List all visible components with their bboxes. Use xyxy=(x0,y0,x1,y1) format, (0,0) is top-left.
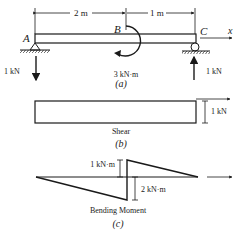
point-label-b: B xyxy=(114,23,121,35)
point-label-c: C xyxy=(200,25,208,37)
moment-curve xyxy=(36,160,198,200)
applied-moment-arrowhead-icon xyxy=(114,50,121,57)
dimension-label-2m: 2 m xyxy=(74,8,88,18)
x-axis-label: x xyxy=(227,25,233,36)
beam xyxy=(35,34,196,43)
figure-c-bending-moment-diagram: 1 kN·m 2 kN·m Bending Moment (c) xyxy=(36,160,232,230)
figure-a-loaded-beam: 2 m 1 m A B C x 1 kN 1 kN 3 kN·m xyxy=(4,8,233,90)
beam-diagram: 2 m 1 m A B C x 1 kN 1 kN 3 kN·m xyxy=(0,0,242,251)
shear-diagram-block xyxy=(35,101,196,123)
negative-moment-label: 2 kN·m xyxy=(141,185,166,194)
caption-b: (b) xyxy=(115,138,127,150)
shear-dimension-marker xyxy=(202,101,208,123)
reaction-label-left: 1 kN xyxy=(4,67,20,76)
roller-support-icon xyxy=(182,43,210,54)
reaction-label-right: 1 kN xyxy=(206,67,222,76)
negative-moment-marker xyxy=(132,177,138,200)
shear-title: Shear xyxy=(112,127,131,136)
moment-title: Bending Moment xyxy=(90,206,147,215)
point-label-a: A xyxy=(22,32,30,44)
dimension-label-1m: 1 m xyxy=(150,8,164,18)
caption-c: (c) xyxy=(112,218,124,230)
positive-moment-label: 1 kN·m xyxy=(90,160,115,169)
figure-b-shear-diagram: 1 kN Shear (b) xyxy=(35,99,230,150)
positive-moment-marker xyxy=(117,160,123,177)
pin-support-icon xyxy=(20,43,50,53)
caption-a: (a) xyxy=(115,78,127,90)
shear-value-label: 1 kN xyxy=(211,107,227,116)
